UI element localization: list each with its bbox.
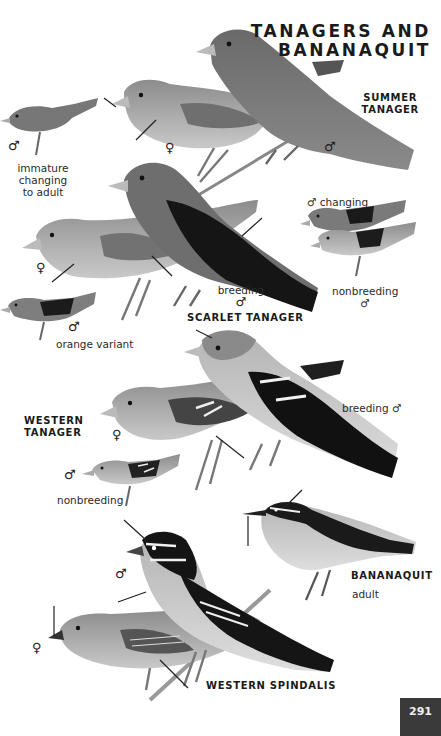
- field-guide-page: TANAGERS AND BANANAQUIT SUMMER TANAGER ♂…: [0, 0, 441, 736]
- western-breeding-note: breeding ♂: [342, 402, 401, 414]
- western-tanager-label-line1: WESTERN: [24, 415, 84, 427]
- scarlet-tanager-orange-variant-figure: [0, 292, 96, 340]
- scarlet-tanager-male-nonbreeding-figure: [310, 222, 416, 276]
- female-symbol: ♀: [165, 141, 175, 154]
- male-symbol: ♂: [216, 296, 266, 309]
- female-symbol: ♀: [36, 261, 46, 274]
- page-title-line2: BANANAQUIT: [251, 41, 431, 60]
- page-title: TANAGERS AND BANANAQUIT: [251, 22, 431, 60]
- male-symbol: ♂: [307, 196, 316, 208]
- western-tanager-label-line2: TANAGER: [24, 427, 84, 439]
- bananaquit-label: BANANAQUIT: [351, 570, 433, 582]
- bananaquit-adult-figure: [242, 502, 416, 600]
- summer-tanager-label: SUMMER TANAGER: [361, 92, 419, 116]
- male-symbol: ♂: [392, 402, 401, 414]
- male-symbol: ♂: [68, 320, 80, 333]
- orange-variant-note: orange variant: [56, 338, 133, 350]
- page-number-tab: 291: [400, 698, 441, 736]
- immature-note-line1: immature: [12, 162, 74, 174]
- female-symbol: ♀: [32, 641, 42, 654]
- male-symbol: ♂: [115, 567, 127, 580]
- scarlet-nonbreeding-note: nonbreeding ♂: [332, 285, 398, 309]
- changing-note-text: changing: [320, 196, 368, 208]
- breeding-note-text: breeding: [342, 402, 389, 414]
- immature-note: immature changing to adult: [12, 162, 74, 198]
- scarlet-changing-note: ♂ changing: [307, 196, 368, 208]
- immature-note-line3: to adult: [12, 186, 74, 198]
- male-symbol: ♂: [324, 140, 336, 153]
- male-symbol: ♂: [8, 139, 20, 152]
- summer-tanager-label-line1: SUMMER: [361, 92, 419, 104]
- immature-note-line2: changing: [12, 174, 74, 186]
- page-number: 291: [400, 705, 441, 718]
- male-symbol: ♂: [332, 297, 398, 309]
- western-nonbreeding-note: nonbreeding: [57, 494, 123, 506]
- page-title-line1: TANAGERS AND: [251, 22, 431, 41]
- female-symbol: ♀: [112, 428, 122, 441]
- western-spindalis-label: WESTERN SPINDALIS: [206, 680, 336, 692]
- male-symbol: ♂: [64, 468, 76, 481]
- summer-tanager-label-line2: TANAGER: [361, 104, 419, 116]
- bananaquit-adult-note: adult: [352, 588, 379, 600]
- western-tanager-label: WESTERN TANAGER: [24, 415, 84, 439]
- scarlet-breeding-note: breeding ♂: [216, 284, 266, 309]
- scarlet-tanager-label: SCARLET TANAGER: [187, 312, 304, 324]
- nonbreeding-note-text: nonbreeding: [332, 285, 398, 297]
